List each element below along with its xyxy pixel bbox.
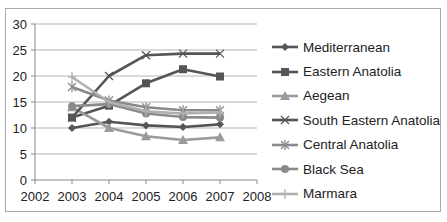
x-tick-label: 2005 [132,189,161,204]
x-tick-label: 2006 [169,189,198,204]
y-tick-label: 5 [20,147,27,162]
y-tick-label: 0 [20,173,27,188]
square-marker-icon [270,66,300,78]
plus-marker-icon [270,188,300,200]
legend: MediterraneanEastern AnatoliaAegeanSouth… [270,35,440,206]
series-mediterranean [68,118,224,132]
x-tick-label: 2004 [95,189,124,204]
legend-item: Mediterranean [270,35,440,59]
x-tick-label: 2008 [243,189,272,204]
square-marker [216,73,224,81]
diamond-marker-icon [270,41,300,53]
circle-marker [68,102,76,110]
legend-item: Marmara [270,181,440,205]
x-tick-label: 2003 [58,189,87,204]
circle-marker [281,165,289,173]
y-tick-label: 25 [13,43,27,58]
legend-item: South Eastern Anatolia [270,108,440,132]
circle-marker-icon [270,163,300,175]
legend-item: Black Sea [270,157,440,181]
x-tick-label: 2007 [206,189,235,204]
diamond-marker [68,124,76,132]
y-tick-label: 10 [13,121,27,136]
triangle-marker-icon [270,90,300,102]
square-marker [142,79,150,87]
square-marker [179,65,187,73]
y-tick-label: 20 [13,69,27,84]
legend-item: Central Anatolia [270,133,440,157]
y-tick-label: 30 [13,17,27,32]
diamond-marker [179,123,187,131]
legend-label: Eastern Anatolia [303,64,401,79]
legend-item: Aegean [270,84,440,108]
x-tick-label: 2002 [21,189,50,204]
legend-label: Central Anatolia [303,137,398,152]
x-marker-icon [270,114,300,126]
legend-label: Black Sea [303,162,364,177]
legend-label: Marmara [303,186,357,201]
square-marker [281,68,289,76]
legend-label: Mediterranean [303,40,390,55]
y-tick-label: 15 [13,95,27,110]
diamond-marker [281,43,289,51]
legend-item: Eastern Anatolia [270,59,440,83]
legend-label: Aegean [303,88,350,103]
star-marker-icon [270,139,300,151]
legend-label: South Eastern Anatolia [303,113,440,128]
